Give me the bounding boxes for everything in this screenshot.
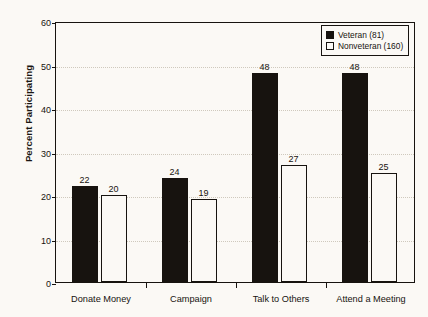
bar: 22 [72, 186, 98, 282]
bar-value-label: 25 [378, 162, 388, 172]
bar: 27 [281, 165, 307, 282]
x-axis-category-label: Donate Money [71, 294, 131, 304]
bar: 20 [101, 195, 127, 282]
chart-legend: Veteran (81) Nonveteran (160) [321, 25, 409, 56]
bar-value-label: 27 [288, 154, 298, 164]
y-axis-title: Percent Participating [23, 24, 34, 204]
y-tick-label: 60 [41, 18, 51, 28]
y-tick-mark [52, 67, 56, 68]
y-tick-label: 40 [41, 105, 51, 115]
legend-label-nonveteran: Nonveteran (160) [338, 41, 403, 51]
bar: 24 [162, 178, 188, 282]
y-tick-mark [52, 110, 56, 111]
bar-chart: Percent Participating 0102030405060 Dona… [0, 0, 428, 317]
gridline [56, 67, 414, 68]
y-tick-label: 0 [46, 279, 51, 289]
y-tick-mark [52, 284, 56, 285]
x-axis-category-label: Talk to Others [253, 294, 310, 304]
y-tick-label: 10 [41, 236, 51, 246]
legend-item-nonveteran: Nonveteran (160) [326, 41, 403, 51]
y-tick-mark [52, 197, 56, 198]
x-axis-category-label: Campaign [170, 294, 212, 304]
x-tick-mark [236, 282, 237, 288]
bar: 19 [191, 199, 217, 282]
bar: 25 [371, 173, 397, 282]
plot-area: 0102030405060 Donate MoneyCampaignTalk t… [55, 22, 415, 283]
bar: 48 [252, 73, 278, 282]
x-tick-mark [146, 282, 147, 288]
bar-value-label: 48 [259, 62, 269, 72]
y-tick-label: 20 [41, 192, 51, 202]
bar-value-label: 22 [79, 175, 89, 185]
y-tick-mark [52, 154, 56, 155]
hollow-square-icon [326, 42, 334, 50]
legend-item-veteran: Veteran (81) [326, 30, 403, 40]
bar-value-label: 24 [169, 167, 179, 177]
y-tick-mark [52, 241, 56, 242]
y-tick-mark [52, 23, 56, 24]
legend-label-veteran: Veteran (81) [338, 30, 384, 40]
x-axis-category-label: Attend a Meeting [336, 294, 405, 304]
y-tick-label: 30 [41, 149, 51, 159]
x-tick-mark [326, 282, 327, 288]
bar-value-label: 20 [108, 184, 118, 194]
filled-square-icon [326, 31, 334, 39]
bar: 48 [342, 73, 368, 282]
bar-value-label: 48 [349, 62, 359, 72]
y-tick-label: 50 [41, 62, 51, 72]
bar-value-label: 19 [198, 188, 208, 198]
